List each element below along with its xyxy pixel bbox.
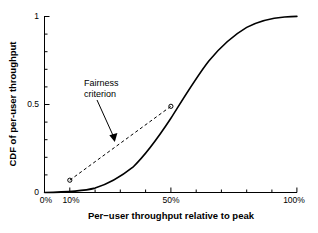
x-tick-label-10pct: 10% bbox=[62, 196, 79, 205]
y-tick-label-1: 1 bbox=[20, 12, 39, 21]
annotation-arrow-head bbox=[109, 133, 117, 142]
annotation-line-1: Fairness bbox=[84, 78, 119, 89]
y-tick-label-0: 0 bbox=[20, 188, 39, 197]
y-axis-title: CDF of per-user throughput bbox=[8, 41, 18, 166]
cdf-chart-figure: 1 0.5 0 0% 10% 50% 100% Per−user through… bbox=[0, 0, 318, 233]
annotation-arrow-shaft bbox=[97, 100, 114, 137]
x-tick-label-50pct: 50% bbox=[162, 196, 179, 205]
fairness-criterion-annotation: Fairness criterion bbox=[84, 78, 119, 101]
fairness-criterion-line bbox=[70, 106, 171, 180]
y-major-ticks bbox=[45, 17, 50, 193]
y-tick-label-0-5: 0.5 bbox=[20, 100, 39, 109]
x-tick-label-100pct: 100% bbox=[283, 196, 305, 205]
fairness-marker-high bbox=[169, 104, 173, 108]
annotation-line-2: criterion bbox=[84, 89, 119, 100]
x-axis-title: Per−user throughput relative to peak bbox=[88, 211, 254, 221]
x-tick-label-0pct: 0% bbox=[40, 196, 52, 205]
